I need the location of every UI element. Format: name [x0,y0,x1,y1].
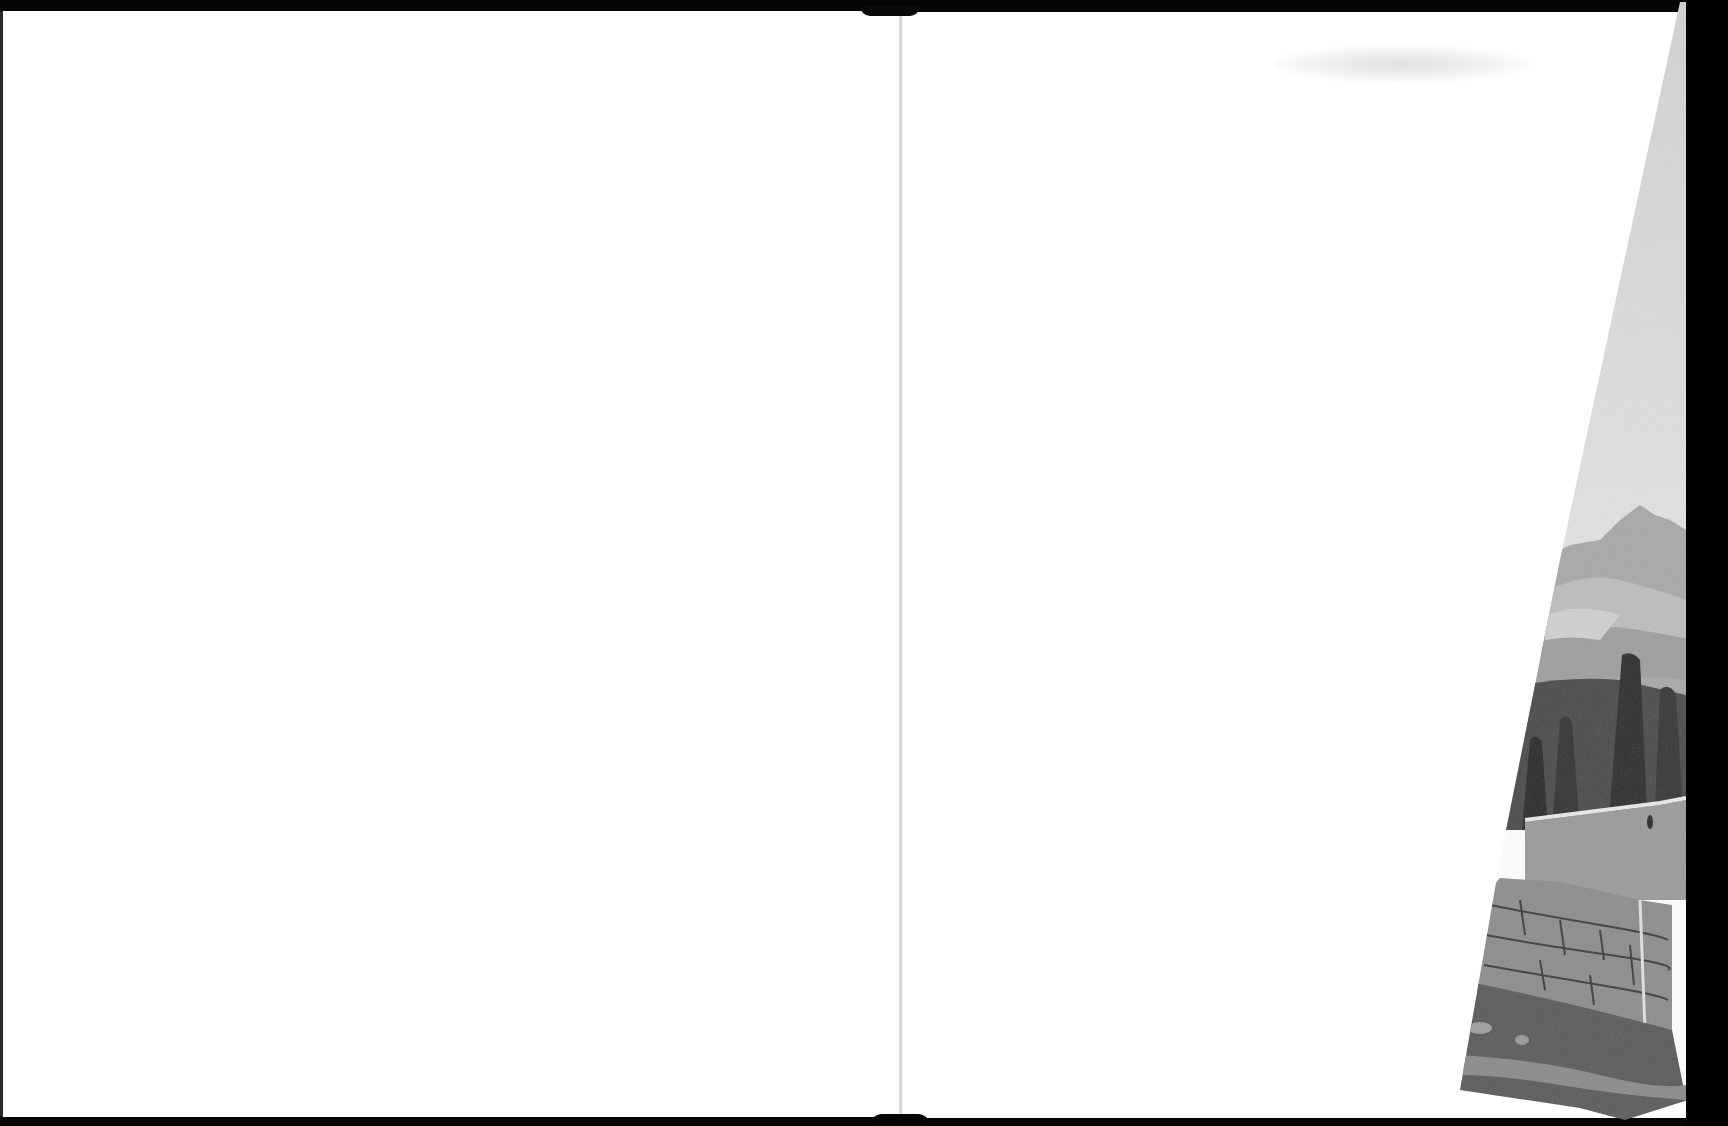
right-page [902,12,1692,1118]
book-gutter [898,10,903,1118]
scan-right-border [1686,0,1728,1125]
gutter-top-shadow [860,6,920,16]
cloud-smudge [1270,45,1532,83]
gutter-bottom-shadow [870,1114,930,1126]
left-page [0,11,899,1117]
